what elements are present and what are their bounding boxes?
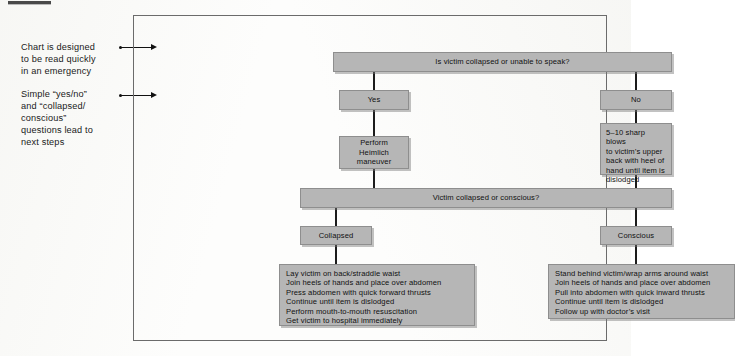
connector-q2-collapsed — [335, 208, 337, 226]
node-action-sharp-blows: 5–10 sharp blows to victim’s upper back … — [600, 123, 672, 175]
connector-q2-conscious — [635, 208, 637, 226]
flowchart-frame: Is victim collapsed or unable to speak? … — [133, 15, 607, 341]
node-branch-collapsed: Collapsed — [300, 226, 372, 245]
connector-no-blows — [635, 110, 637, 123]
connector-yes-heimlich — [373, 110, 375, 136]
node-label: Conscious — [618, 231, 654, 240]
node-branch-no: No — [600, 90, 672, 110]
node-steps-conscious: Stand behind victim/wrap arms around wai… — [548, 264, 735, 319]
connector-conscious-steps — [635, 245, 637, 264]
connector-heimlich-q2 — [373, 169, 375, 188]
annotation-simple-questions: Simple “yes/no” and “collapsed/ consciou… — [21, 88, 133, 148]
node-label: No — [631, 95, 641, 104]
node-branch-yes: Yes — [339, 90, 409, 110]
connector-q1-yes — [373, 72, 375, 90]
node-label: Perform Heimlich maneuver — [357, 138, 392, 167]
node-label: Victim collapsed or conscious? — [433, 193, 540, 202]
node-branch-conscious: Conscious — [600, 226, 672, 245]
node-label: Yes — [368, 95, 381, 104]
node-label: Is victim collapsed or unable to speak? — [435, 57, 569, 66]
node-label: 5–10 sharp blows to victim’s upper back … — [606, 128, 666, 184]
node-label: Stand behind victim/wrap arms around wai… — [555, 269, 710, 316]
connector-q1-no — [635, 72, 637, 90]
node-label: Lay victim on back/straddle waist Join h… — [286, 269, 441, 325]
node-label: Collapsed — [319, 231, 354, 240]
node-action-heimlich-maneuver: Perform Heimlich maneuver — [339, 136, 409, 169]
annotation-read-quickly: Chart is designed to be read quickly in … — [21, 41, 133, 77]
node-steps-collapsed: Lay victim on back/straddle waist Join h… — [279, 264, 475, 326]
scan-artifact-bar-highlight — [8, 4, 51, 5]
node-question-collapsed-or-conscious: Victim collapsed or conscious? — [300, 188, 672, 208]
connector-collapsed-steps — [335, 245, 337, 264]
node-question-collapsed-or-unable: Is victim collapsed or unable to speak? — [333, 52, 672, 72]
